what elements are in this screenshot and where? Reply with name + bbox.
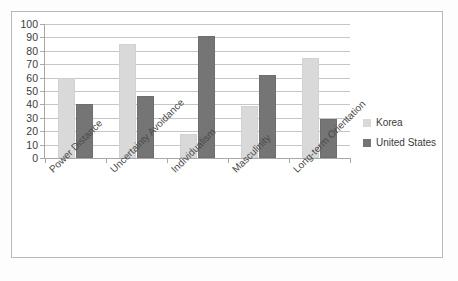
legend-item-united-states[interactable]: United States: [363, 137, 441, 148]
y-tick-label-30: 30: [4, 113, 38, 123]
y-tick-mark-20: [40, 131, 45, 132]
y-tick-label-20: 20: [4, 126, 38, 136]
y-tick-label-90: 90: [4, 32, 38, 42]
y-tick-mark-70: [40, 64, 45, 65]
y-tick-label-10: 10: [4, 140, 38, 150]
x-tick-2: [167, 158, 168, 163]
y-tick-mark-50: [40, 91, 45, 92]
y-tick-mark-80: [40, 51, 45, 52]
legend-item-korea[interactable]: Korea: [363, 117, 441, 128]
y-tick-mark-10: [40, 145, 45, 146]
legend-swatch-icon: [363, 119, 371, 127]
y-tick-label-80: 80: [4, 46, 38, 56]
y-tick-mark-100: [40, 24, 45, 25]
y-tick-mark-60: [40, 78, 45, 79]
y-tick-label-60: 60: [4, 73, 38, 83]
y-tick-mark-0: [40, 158, 45, 159]
y-tick-mark-30: [40, 118, 45, 119]
bar-chart-figure: 1009080706050403020100 Power DistanceUnc…: [0, 0, 458, 281]
y-tick-label-70: 70: [4, 59, 38, 69]
y-tick-label-100: 100: [4, 19, 38, 29]
y-tick-mark-40: [40, 104, 45, 105]
legend-label: United States: [376, 138, 436, 148]
x-tick-4: [289, 158, 290, 163]
y-tick-label-0: 0: [4, 153, 38, 163]
y-tick-label-50: 50: [4, 86, 38, 96]
y-axis-tick-labels: 1009080706050403020100: [0, 0, 38, 281]
x-tick-3: [228, 158, 229, 163]
y-tick-label-40: 40: [4, 99, 38, 109]
y-tick-mark-90: [40, 37, 45, 38]
legend-swatch-icon: [363, 139, 371, 147]
legend-label: Korea: [376, 118, 403, 128]
chart-legend: KoreaUnited States: [363, 117, 441, 157]
x-tick-0: [45, 158, 46, 163]
x-tick-1: [106, 158, 107, 163]
x-tick-end: [350, 158, 351, 163]
